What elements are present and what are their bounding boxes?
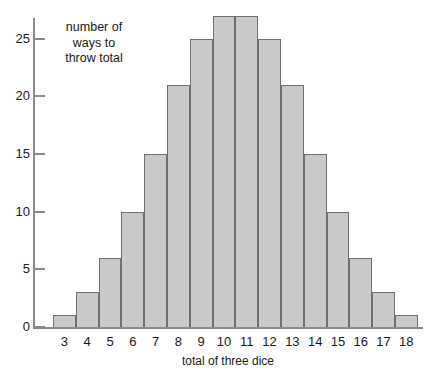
x-axis-tick-label: 17 bbox=[372, 333, 395, 351]
x-axis-title: total of three dice bbox=[33, 354, 423, 368]
bar bbox=[121, 212, 144, 327]
bar bbox=[190, 39, 213, 327]
y-axis-tick-label: 10 bbox=[0, 205, 30, 218]
y-axis-tick-label-text: 25 bbox=[2, 32, 30, 45]
x-axis-tick-label: 16 bbox=[349, 333, 372, 351]
bar bbox=[281, 85, 304, 327]
y-axis-tick-label: 20 bbox=[0, 89, 30, 102]
bar bbox=[167, 85, 190, 327]
y-axis-tick-label-text: 5 bbox=[2, 262, 30, 275]
bar bbox=[372, 292, 395, 327]
bar bbox=[304, 154, 327, 327]
bar bbox=[76, 292, 99, 327]
x-axis-tick-label: 13 bbox=[281, 333, 304, 351]
bar bbox=[99, 258, 122, 327]
bar bbox=[53, 315, 76, 327]
bar bbox=[144, 154, 167, 327]
x-axis-tick-label: 10 bbox=[213, 333, 236, 351]
bar-group bbox=[53, 8, 418, 327]
plot-area bbox=[35, 8, 423, 327]
y-axis-tick-label: 0 bbox=[0, 320, 30, 333]
y-axis-tick-label: 25 bbox=[0, 32, 30, 45]
x-axis-tick-label: 9 bbox=[190, 333, 213, 351]
x-axis-tick-label: 14 bbox=[304, 333, 327, 351]
y-axis-tick-label: 5 bbox=[0, 262, 30, 275]
x-axis-tick-label: 18 bbox=[395, 333, 418, 351]
x-axis-tick-label: 8 bbox=[167, 333, 190, 351]
bar bbox=[258, 39, 281, 327]
bar bbox=[395, 315, 418, 327]
y-axis-tick-label-text: 0 bbox=[2, 320, 30, 333]
x-axis-line bbox=[33, 327, 423, 329]
x-axis-tick-label: 11 bbox=[235, 333, 258, 351]
x-axis-tick-label: 3 bbox=[53, 333, 76, 351]
bar bbox=[327, 212, 350, 327]
bar bbox=[213, 16, 236, 327]
x-axis-tick-label: 4 bbox=[76, 333, 99, 351]
x-axis-tick-label-group: 3456789101112131415161718 bbox=[53, 333, 418, 351]
x-axis-tick-label: 15 bbox=[327, 333, 350, 351]
x-axis-tick-label: 5 bbox=[99, 333, 122, 351]
dice-total-histogram: 0510152025 number of ways to throw total… bbox=[0, 0, 431, 377]
x-axis-tick-label: 7 bbox=[144, 333, 167, 351]
y-axis-tick-label-text: 15 bbox=[2, 147, 30, 160]
bar bbox=[349, 258, 372, 327]
y-axis-tick-label-text: 20 bbox=[2, 89, 30, 102]
y-axis-tick-label: 15 bbox=[0, 147, 30, 160]
bar bbox=[235, 16, 258, 327]
x-axis-tick-label: 6 bbox=[121, 333, 144, 351]
x-axis-tick-label: 12 bbox=[258, 333, 281, 351]
y-axis-tick-label-text: 10 bbox=[2, 205, 30, 218]
